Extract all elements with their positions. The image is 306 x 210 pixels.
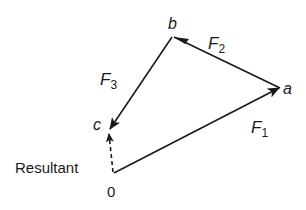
resultant-label: Resultant xyxy=(15,159,79,176)
point-label-b: b xyxy=(168,15,177,32)
f3-sub: 3 xyxy=(110,78,117,92)
f1-sub: 1 xyxy=(261,126,268,140)
vector-label-f3: F3 xyxy=(100,70,117,92)
vector-polygon-diagram: b a c 0 F2 F3 F1 Resultant xyxy=(0,0,306,210)
f2-sub: 2 xyxy=(218,42,225,56)
vector-f3 xyxy=(110,37,172,129)
point-label-c: c xyxy=(93,116,101,133)
point-label-a: a xyxy=(283,80,292,97)
point-label-origin: 0 xyxy=(107,183,115,200)
vector-label-f2: F2 xyxy=(208,34,225,56)
vector-resultant xyxy=(109,134,113,172)
vector-label-f1: F1 xyxy=(251,118,268,140)
vector-f2 xyxy=(174,37,280,88)
